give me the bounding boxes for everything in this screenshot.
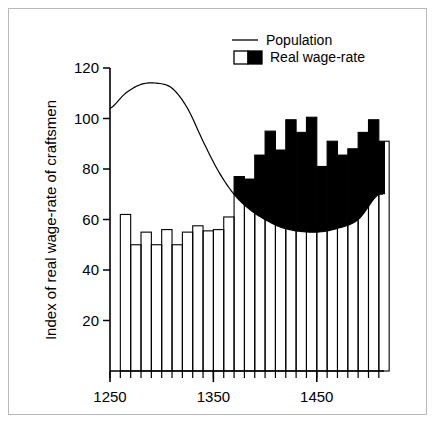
legend-marker-wage-white bbox=[234, 51, 248, 64]
bar-black-segment bbox=[368, 120, 378, 207]
bar-black-segment bbox=[255, 155, 265, 219]
bar-real-wage-rate bbox=[172, 245, 182, 371]
bar-black-segment bbox=[327, 141, 337, 231]
bar-real-wage-rate bbox=[203, 231, 213, 371]
chart-legend: Population Real wage-rate bbox=[232, 32, 365, 65]
chart-canvas: 20406080100120 125013501450 Index of rea… bbox=[0, 0, 437, 432]
bar-real-wage-rate bbox=[131, 245, 141, 371]
bar-real-wage-rate bbox=[151, 245, 161, 371]
bar-black-segment bbox=[275, 150, 285, 229]
legend-marker-wage-black bbox=[248, 51, 262, 64]
bar-black-segment bbox=[358, 132, 368, 219]
bar-real-wage-rate bbox=[162, 230, 172, 371]
y-axis-ticks: 20406080100120 bbox=[74, 59, 110, 329]
x-tick-label: 1450 bbox=[300, 388, 333, 405]
x-tick-label: 1350 bbox=[197, 388, 230, 405]
bar-black-segment bbox=[286, 120, 296, 231]
bar-black-segment bbox=[296, 132, 306, 232]
y-tick-label: 60 bbox=[82, 211, 99, 228]
y-tick-label: 20 bbox=[82, 312, 99, 329]
bar-black-segment bbox=[265, 131, 275, 225]
x-tick-label: 1250 bbox=[93, 388, 126, 405]
bar-real-wage-rate bbox=[234, 177, 244, 371]
bar-real-wage-rate bbox=[120, 214, 130, 371]
bar-real-wage-rate bbox=[182, 232, 192, 371]
bar-black-segment bbox=[306, 117, 316, 232]
legend-label-population: Population bbox=[266, 32, 332, 48]
bar-black-segment bbox=[317, 166, 327, 232]
y-tick-label: 40 bbox=[82, 261, 99, 278]
bar-real-wage-rate bbox=[193, 226, 203, 371]
y-tick-label: 80 bbox=[82, 160, 99, 177]
bar-real-wage-rate bbox=[213, 230, 223, 371]
bar-black-segment bbox=[337, 155, 347, 228]
y-tick-label: 100 bbox=[74, 110, 99, 127]
y-tick-label: 120 bbox=[74, 59, 99, 76]
x-axis-ticks: 125013501450 bbox=[93, 371, 379, 405]
figure-root: 20406080100120 125013501450 Index of rea… bbox=[0, 0, 437, 432]
bar-real-wage-rate bbox=[224, 217, 234, 371]
bar-real-wage-rate bbox=[141, 232, 151, 371]
y-axis-title: Index of real wage-rate of craftsmen bbox=[42, 100, 59, 340]
legend-label-real-wage-rate: Real wage-rate bbox=[270, 49, 365, 65]
bar-black-segment bbox=[348, 149, 358, 225]
